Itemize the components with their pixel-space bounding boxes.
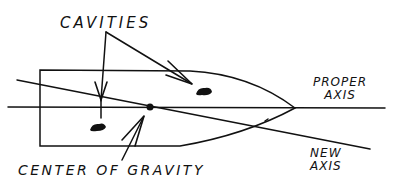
cavities-arrow-1 [101, 32, 106, 100]
cavity-blob-2 [196, 88, 212, 96]
center-of-gravity-label: CENTER OF GRAVITY [18, 163, 205, 177]
proper-axis-label: PROPER AXIS [313, 76, 367, 102]
cog-arrowhead [122, 116, 144, 146]
new-axis-label-line2: AXIS [310, 160, 342, 173]
proper-axis-line [8, 107, 385, 108]
arrowhead-2 [166, 61, 192, 84]
new-axis-label: NEW AXIS [310, 147, 342, 173]
cavities-arrow-2 [106, 32, 192, 84]
cavities-label: CAVITIES [60, 16, 151, 31]
cog-arrow [122, 116, 144, 160]
center-of-gravity-dot [147, 104, 154, 111]
proper-axis-label-line2: AXIS [313, 89, 367, 102]
diagram-canvas: CAVITIES CENTER OF GRAVITY PROPER AXIS N… [0, 0, 396, 186]
cavity-blob-1 [90, 123, 106, 131]
